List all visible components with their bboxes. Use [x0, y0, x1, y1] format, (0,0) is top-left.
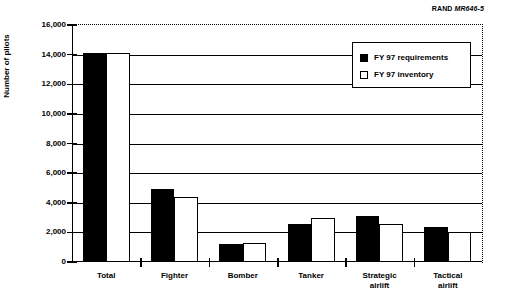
x-cat-label-line: Tactical: [403, 271, 493, 281]
chart-legend: FY 97 requirementsFY 97 inventory: [352, 42, 471, 88]
bar-inventory: [379, 224, 403, 263]
bar-requirements: [151, 189, 175, 262]
bar-requirements: [288, 224, 312, 263]
legend-label: FY 97 requirements: [374, 53, 448, 62]
bar-inventory: [106, 53, 130, 262]
x-cat-label-tactical-airlift: Tacticalairlift: [403, 271, 493, 290]
bar-requirements: [219, 244, 243, 262]
bar-group: [72, 25, 140, 262]
x-cat-label-line: airlift: [403, 281, 493, 291]
y-tick-label: 0: [6, 258, 66, 266]
bar-requirements: [356, 216, 380, 262]
y-tick-label: 14,000: [6, 51, 66, 59]
bar-inventory: [174, 197, 198, 262]
source-credit: RAND MR646-5: [432, 5, 484, 12]
source-credit-id: MR646-5: [455, 5, 485, 12]
bar-requirements: [424, 227, 448, 262]
plot-frame-right-border: [482, 24, 483, 263]
y-tick-label: 12,000: [6, 80, 66, 88]
y-tick-label: 8,000: [6, 140, 66, 148]
legend-swatch-inventory: [360, 71, 368, 79]
legend-row: FY 97 requirements: [360, 49, 470, 66]
x-tick-mark: [140, 258, 142, 267]
bar-inventory: [311, 218, 335, 262]
source-credit-prefix: RAND: [432, 5, 453, 12]
legend-swatch-requirements: [360, 54, 368, 62]
legend-row: FY 97 inventory: [360, 66, 470, 83]
y-tick-label: 2,000: [6, 228, 66, 236]
bar-inventory: [243, 243, 267, 262]
y-tick-label: 4,000: [6, 199, 66, 207]
y-tick-label: 10,000: [6, 110, 66, 118]
y-tick-label: 16,000: [6, 21, 66, 29]
bar-group: [140, 25, 208, 262]
x-tick-mark: [414, 258, 416, 267]
bar-group: [209, 25, 277, 262]
y-tick-label: 6,000: [6, 169, 66, 177]
bar-group: [277, 25, 345, 262]
x-tick-mark: [209, 258, 211, 267]
x-tick-mark: [277, 258, 279, 267]
x-tick-mark: [345, 258, 347, 267]
bar-inventory: [448, 232, 472, 262]
legend-label: FY 97 inventory: [374, 70, 433, 79]
bar-requirements: [83, 53, 107, 262]
figure-bar-chart: RAND MR646-5 Number of pilots 16,00014,0…: [0, 0, 508, 308]
